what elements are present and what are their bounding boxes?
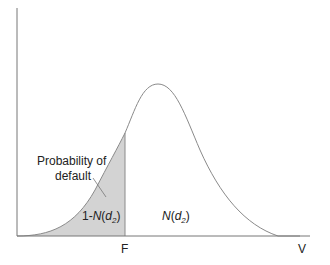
right-region-label: N(d2)	[162, 209, 190, 225]
annotation-line2: default	[55, 169, 92, 183]
x-axis-label: V	[298, 242, 306, 256]
distribution-diagram: Probability of default 1-N(d2) N(d2) F V	[0, 0, 330, 265]
diagram-canvas: Probability of default 1-N(d2) N(d2) F V	[0, 0, 330, 265]
threshold-label: F	[121, 242, 128, 256]
annotation-line1: Probability of	[37, 154, 107, 168]
